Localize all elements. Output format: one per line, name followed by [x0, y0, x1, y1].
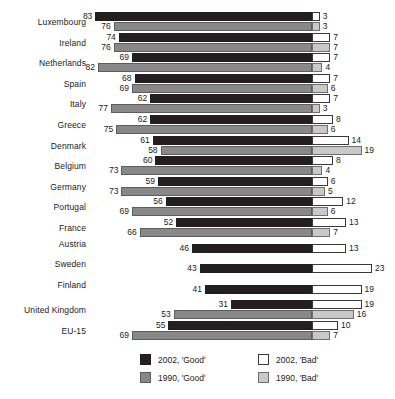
value-label-2002-bad: 23: [375, 263, 384, 273]
legend-item-bad2002[interactable]: 2002, 'Bad': [258, 354, 318, 365]
bar-segment-1990-bad: [312, 331, 330, 340]
bar-segment-2002-bad: [312, 264, 372, 273]
value-label-1990-bad: 7: [333, 227, 338, 237]
value-label-2002-bad: 6: [331, 176, 336, 186]
bar-line-2002: 5213: [0, 218, 395, 227]
value-label-2002-bad: 19: [365, 284, 374, 294]
bar-line-2002: 5612: [0, 197, 395, 206]
value-label-2002-good: 43: [166, 263, 197, 273]
value-label-1990-bad: 3: [323, 21, 328, 31]
legend-item-good1990[interactable]: 1990, 'Good': [140, 372, 206, 383]
bar-line-2002: 608: [0, 156, 395, 165]
bar-segment-2002-bad: [312, 33, 330, 42]
legend-item-bad1990[interactable]: 1990, 'Bad': [258, 372, 318, 383]
chart-container: Luxembourg833763Ireland747767Netherlands…: [0, 0, 395, 399]
bar-line-1990: 735: [0, 187, 395, 196]
bar-segment-1990-good: [111, 104, 312, 113]
bar-segment-1990-bad: [312, 228, 330, 237]
value-label-1990-good: 66: [106, 227, 137, 237]
value-label-1990-bad: 7: [333, 42, 338, 52]
legend-swatch-good2002: [140, 354, 151, 365]
bar-segment-1990-good: [116, 125, 312, 134]
bar-line-2002: 628: [0, 115, 395, 124]
value-label-1990-bad: 3: [323, 103, 328, 113]
legend-label: 2002, 'Bad': [276, 355, 318, 365]
bar-segment-2002-bad: [312, 115, 333, 124]
bar-segment-1990-good: [140, 228, 312, 237]
bar-line-1990: 696: [0, 84, 395, 93]
chart-row: EU-155510697: [0, 321, 395, 342]
value-label-1990-bad: 6: [331, 206, 336, 216]
chart-row: Austria4613: [0, 239, 395, 260]
value-label-2002-good: 62: [116, 114, 147, 124]
bar-segment-2002-bad: [312, 197, 343, 206]
legend-swatch-bad2002: [258, 354, 269, 365]
bar-segment-2002-bad: [312, 12, 320, 21]
bar-segment-1990-good: [161, 146, 312, 155]
value-label-1990-bad: 5: [328, 186, 333, 196]
value-label-1990-bad: 19: [365, 145, 374, 155]
bar-segment-2002-bad: [312, 321, 338, 330]
value-label-1990-good: 58: [127, 145, 158, 155]
value-label-2002-bad: 12: [346, 196, 355, 206]
bar-segment-1990-bad: [312, 125, 328, 134]
bar-segment-1990-good: [132, 84, 312, 93]
bar-segment-2002-bad: [312, 53, 330, 62]
value-label-2002-good: 41: [171, 284, 202, 294]
bar-segment-1990-good: [132, 331, 312, 340]
bar-line-2002: 4119: [0, 285, 395, 294]
bar-segment-2002-bad: [312, 136, 349, 145]
value-label-2002-good: 56: [132, 196, 163, 206]
bar-segment-1990-good: [114, 22, 312, 31]
bar-line-1990: 763: [0, 22, 395, 31]
value-label-1990-good: 77: [77, 103, 108, 113]
value-label-2002-bad: 7: [333, 93, 338, 103]
bar-segment-2002-good: [176, 218, 312, 227]
bar-line-2002: 4323: [0, 264, 395, 273]
bar-segment-2002-good: [150, 115, 312, 124]
chart-row: Netherlands697824: [0, 53, 395, 74]
value-label-1990-good: 69: [98, 206, 129, 216]
bar-segment-2002-good: [168, 321, 312, 330]
bar-segment-1990-bad: [312, 84, 328, 93]
bar-line-2002: 5510: [0, 321, 395, 330]
value-label-2002-good: 62: [116, 93, 147, 103]
bar-line-1990: 697: [0, 331, 395, 340]
bar-segment-2002-good: [132, 53, 312, 62]
value-label-2002-good: 59: [124, 176, 155, 186]
bar-segment-2002-good: [166, 197, 312, 206]
bar-segment-2002-good: [192, 244, 312, 253]
value-label-2002-bad: 7: [333, 32, 338, 42]
bar-segment-2002-good: [231, 300, 312, 309]
bar-line-2002: 6114: [0, 136, 395, 145]
value-label-2002-bad: 13: [349, 243, 358, 253]
chart-plot-area: Luxembourg833763Ireland747767Netherlands…: [0, 6, 395, 346]
bar-segment-1990-good: [132, 207, 312, 216]
value-label-2002-bad: 19: [365, 299, 374, 309]
value-label-2002-bad: 10: [341, 320, 350, 330]
bar-line-1990: 5819: [0, 146, 395, 155]
bar-segment-1990-good: [98, 63, 312, 72]
legend-item-good2002[interactable]: 2002, 'Good': [140, 354, 206, 365]
value-label-2002-good: 68: [101, 73, 132, 83]
value-label-1990-bad: 6: [331, 124, 336, 134]
bar-line-2002: 627: [0, 94, 395, 103]
value-label-2002-good: 52: [142, 217, 173, 227]
chart-row: Portugal5612696: [0, 197, 395, 218]
value-label-1990-bad: 6: [331, 83, 336, 93]
value-label-2002-bad: 8: [336, 155, 341, 165]
chart-row: Denmark61145819: [0, 136, 395, 157]
bar-segment-2002-good: [119, 33, 312, 42]
chart-row: Italy627773: [0, 94, 395, 115]
value-label-2002-bad: 13: [349, 217, 358, 227]
value-label-1990-good: 69: [98, 83, 129, 93]
value-label-2002-bad: 14: [352, 135, 361, 145]
bar-line-2002: 747: [0, 33, 395, 42]
bar-segment-2002-good: [150, 94, 312, 103]
value-label-2002-good: 69: [98, 52, 129, 62]
bar-segment-1990-bad: [312, 187, 325, 196]
value-label-2002-bad: 7: [333, 52, 338, 62]
bar-line-1990: 773: [0, 104, 395, 113]
chart-row: Luxembourg833763: [0, 12, 395, 33]
value-label-1990-good: 76: [80, 42, 111, 52]
